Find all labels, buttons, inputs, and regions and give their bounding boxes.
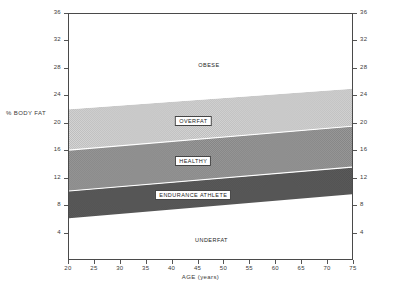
bands-svg xyxy=(69,14,352,259)
plot-area: UNDERFATENDURANCE ATHLETEHEALTHYOVERFATO… xyxy=(68,13,353,260)
body-fat-age-chart: UNDERFATENDURANCE ATHLETEHEALTHYOVERFATO… xyxy=(0,0,401,294)
x-tick-45 xyxy=(198,260,199,264)
x-axis-title: AGE (years) xyxy=(0,274,401,280)
x-tick-30 xyxy=(120,260,121,264)
y-tick-label-right-36: 36 xyxy=(360,9,376,15)
y-tick-label-right-24: 24 xyxy=(360,91,376,97)
y-tick-label-left-4: 4 xyxy=(45,229,61,235)
x-tick-55 xyxy=(249,260,250,264)
y-tick-label-right-8: 8 xyxy=(360,201,376,207)
y-tick-label-left-8: 8 xyxy=(45,201,61,207)
y-tick-label-left-20: 20 xyxy=(45,119,61,125)
x-tick-label-45: 45 xyxy=(188,265,208,271)
y-tick-label-left-36: 36 xyxy=(45,9,61,15)
y-tick-label-left-24: 24 xyxy=(45,91,61,97)
y-tick-label-right-12: 12 xyxy=(360,174,376,180)
band-label-overfat: OVERFAT xyxy=(175,116,211,126)
band-label-endurance-athlete: ENDURANCE ATHLETE xyxy=(155,190,231,200)
x-tick-label-30: 30 xyxy=(110,265,130,271)
y-tick-left-4 xyxy=(64,233,68,234)
x-tick-label-20: 20 xyxy=(58,265,78,271)
y-tick-label-right-32: 32 xyxy=(360,36,376,42)
y-tick-right-12 xyxy=(353,178,357,179)
y-tick-right-4 xyxy=(353,233,357,234)
y-tick-right-32 xyxy=(353,40,357,41)
y-tick-left-36 xyxy=(64,13,68,14)
x-tick-60 xyxy=(275,260,276,264)
y-tick-left-8 xyxy=(64,205,68,206)
x-tick-label-55: 55 xyxy=(239,265,259,271)
y-tick-label-right-16: 16 xyxy=(360,146,376,152)
x-tick-20 xyxy=(68,260,69,264)
y-tick-left-24 xyxy=(64,95,68,96)
band-label-healthy: HEALTHY xyxy=(175,156,211,166)
x-tick-label-25: 25 xyxy=(84,265,104,271)
y-tick-left-12 xyxy=(64,178,68,179)
y-tick-left-16 xyxy=(64,150,68,151)
x-tick-label-40: 40 xyxy=(162,265,182,271)
x-tick-50 xyxy=(223,260,224,264)
x-tick-70 xyxy=(327,260,328,264)
y-tick-label-left-12: 12 xyxy=(45,174,61,180)
x-tick-35 xyxy=(146,260,147,264)
y-tick-right-24 xyxy=(353,95,357,96)
x-tick-65 xyxy=(301,260,302,264)
x-tick-label-75: 75 xyxy=(343,265,363,271)
y-tick-right-36 xyxy=(353,13,357,14)
x-tick-label-65: 65 xyxy=(291,265,311,271)
y-tick-label-left-32: 32 xyxy=(45,36,61,42)
y-tick-label-right-20: 20 xyxy=(360,119,376,125)
x-tick-40 xyxy=(172,260,173,264)
band-label-underfat: UNDERFAT xyxy=(195,237,228,243)
y-tick-right-8 xyxy=(353,205,357,206)
y-tick-label-right-28: 28 xyxy=(360,64,376,70)
y-tick-label-right-4: 4 xyxy=(360,229,376,235)
band-label-obese: OBESE xyxy=(198,62,219,68)
x-tick-label-60: 60 xyxy=(265,265,285,271)
x-tick-75 xyxy=(353,260,354,264)
x-tick-label-70: 70 xyxy=(317,265,337,271)
y-tick-label-left-28: 28 xyxy=(45,64,61,70)
band-polygons xyxy=(69,14,352,259)
x-tick-25 xyxy=(94,260,95,264)
y-tick-right-16 xyxy=(353,150,357,151)
x-tick-label-35: 35 xyxy=(136,265,156,271)
y-tick-left-32 xyxy=(64,40,68,41)
x-tick-label-50: 50 xyxy=(213,265,233,271)
y-tick-left-20 xyxy=(64,123,68,124)
y-tick-label-left-16: 16 xyxy=(45,146,61,152)
y-tick-right-28 xyxy=(353,68,357,69)
y-axis-title: % BODY FAT xyxy=(6,110,46,116)
y-tick-right-20 xyxy=(353,123,357,124)
y-tick-left-28 xyxy=(64,68,68,69)
